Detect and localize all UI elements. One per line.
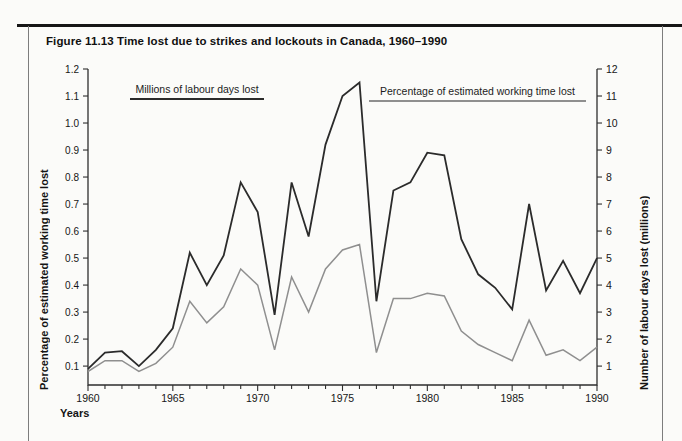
y-axis-right-tick-label: 12 xyxy=(606,63,618,75)
figure-page: Figure 11.13 Time lost due to strikes an… xyxy=(0,0,682,441)
y-axis-right-tick-label: 4 xyxy=(606,279,612,291)
y-axis-left-tick-label: 1.1 xyxy=(65,91,79,102)
y-axis-left-tick-label: 0.3 xyxy=(65,307,79,318)
series-line-percentage xyxy=(88,245,597,372)
y-axis-left-tick-label: 0.8 xyxy=(65,172,79,183)
y-axis-right-tick-label: 7 xyxy=(606,198,612,210)
y-axis-right-tick-label: 9 xyxy=(606,144,612,156)
x-axis-tick-label: 1960 xyxy=(76,392,100,404)
y-axis-left-tick-label: 1.0 xyxy=(65,118,79,129)
y-axis-left-tick-label: 0.4 xyxy=(65,280,79,291)
y-axis-left-tick-label: 0.6 xyxy=(65,226,79,237)
x-axis-tick-label: 1990 xyxy=(585,392,609,404)
series-line-millions xyxy=(88,83,597,369)
y-axis-right-tick-label: 5 xyxy=(606,252,612,264)
y-axis-left-tick-label: 0.9 xyxy=(65,145,79,156)
y-axis-left-tick-label: 0.7 xyxy=(65,199,79,210)
y-axis-left-tick-label: 0.2 xyxy=(65,334,79,345)
y-axis-left-tick-label: 0.1 xyxy=(65,361,79,372)
y-axis-right-tick-label: 6 xyxy=(606,225,612,237)
y-axis-right-tick-label: 11 xyxy=(606,90,617,102)
x-axis-tick-label: 1980 xyxy=(416,392,440,404)
y-axis-left-tick-label: 0.5 xyxy=(65,253,79,264)
chart-plot-area: 0.10.20.30.40.50.60.70.80.91.01.11.21234… xyxy=(0,0,682,441)
x-axis-tick-label: 1975 xyxy=(331,392,355,404)
y-axis-right-tick-label: 10 xyxy=(606,117,618,129)
y-axis-right-tick-label: 8 xyxy=(606,171,612,183)
axes-frame xyxy=(88,69,597,385)
y-axis-right-tick-label: 2 xyxy=(606,333,612,345)
y-axis-right-tick-label: 3 xyxy=(606,306,612,318)
y-axis-right-tick-label: 1 xyxy=(606,360,612,372)
x-axis-tick-label: 1970 xyxy=(246,392,270,404)
x-axis-tick-label: 1985 xyxy=(500,392,524,404)
x-axis-tick-label: 1965 xyxy=(161,392,185,404)
y-axis-left-tick-label: 1.2 xyxy=(65,64,79,75)
